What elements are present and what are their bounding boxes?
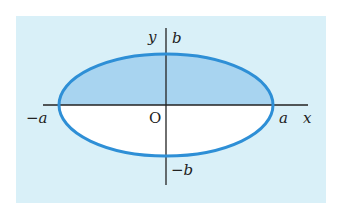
origin-label: O [149,109,161,127]
y-intercept-positive-label: b [172,29,182,47]
x-axis-label: x [303,109,312,127]
ellipse-diagram-svg: y b −a O a x −b [0,0,341,210]
ellipse-figure: y b −a O a x −b [0,0,341,210]
x-intercept-negative-label: −a [26,109,48,127]
x-intercept-positive-label: a [279,109,288,127]
y-intercept-negative-label: −b [171,161,193,179]
y-axis-label: y [147,28,157,46]
